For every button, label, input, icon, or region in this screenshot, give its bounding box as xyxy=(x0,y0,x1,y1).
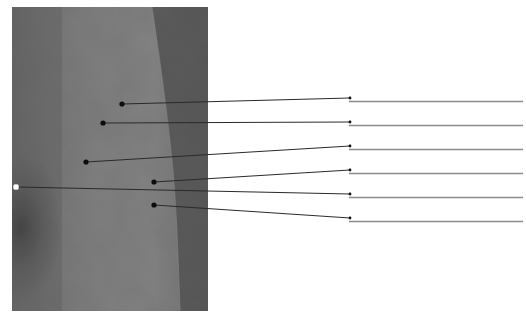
anatomy-point-marker xyxy=(100,120,105,125)
label-anchor-dot xyxy=(349,121,352,124)
skin-photo xyxy=(12,7,208,311)
anatomy-point-marker xyxy=(83,159,88,164)
label-anchor-dot xyxy=(349,145,352,148)
label-anchor-dot xyxy=(349,97,352,100)
reference-point-marker xyxy=(14,185,19,190)
anatomy-point-marker xyxy=(151,202,156,207)
labeling-diagram xyxy=(0,0,526,318)
label-anchor-dot xyxy=(349,193,352,196)
label-anchor-dot xyxy=(349,217,352,220)
anatomy-point-marker xyxy=(151,179,156,184)
label-anchor-dot xyxy=(349,169,352,172)
anatomy-point-marker xyxy=(119,101,124,106)
